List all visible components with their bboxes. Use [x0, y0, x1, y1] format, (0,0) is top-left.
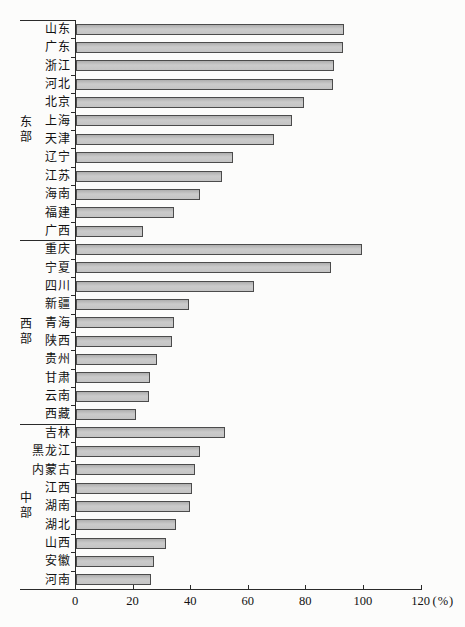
x-axis-tick	[421, 585, 422, 589]
x-axis-tick	[190, 585, 191, 589]
category-label: 广东	[0, 38, 71, 56]
category-label: 天津	[0, 130, 71, 148]
y-axis-tick	[71, 240, 75, 241]
bar	[76, 24, 344, 35]
x-axis-line	[20, 589, 422, 590]
y-axis-tick	[71, 57, 75, 58]
x-axis-tick-label: 80	[299, 594, 312, 609]
category-label: 浙江	[0, 57, 71, 75]
x-axis-tick-label: 0	[72, 594, 78, 609]
bar	[76, 427, 225, 438]
y-axis-tick	[71, 552, 75, 553]
category-label: 青海	[0, 314, 71, 332]
bar	[76, 391, 149, 402]
y-axis-tick	[71, 295, 75, 296]
y-axis-tick	[71, 167, 75, 168]
x-axis-tick	[248, 585, 249, 589]
y-axis-tick	[71, 387, 75, 388]
category-label: 安徽	[0, 552, 71, 570]
x-axis-tick-label: 120	[411, 594, 430, 609]
category-label: 内蒙古	[0, 461, 71, 479]
bar	[76, 226, 143, 237]
bar	[76, 483, 192, 494]
bar	[76, 538, 166, 549]
category-label: 新疆	[0, 295, 71, 313]
y-axis-tick	[71, 38, 75, 39]
y-axis-tick	[71, 93, 75, 94]
bar	[76, 60, 334, 71]
category-label: 重庆	[0, 240, 71, 258]
bar	[76, 317, 174, 328]
bar	[76, 189, 200, 200]
bar	[76, 336, 172, 347]
x-axis-unit-label: (%)	[433, 594, 455, 609]
bar	[76, 409, 136, 420]
y-axis-tick	[71, 571, 75, 572]
bar	[76, 42, 343, 53]
category-label: 江苏	[0, 167, 71, 185]
category-label: 四川	[0, 277, 71, 295]
y-axis-tick	[71, 479, 75, 480]
bar	[76, 152, 233, 163]
bar	[76, 299, 189, 310]
category-label: 山西	[0, 534, 71, 552]
x-axis-tick-label: 60	[242, 594, 255, 609]
category-label: 辽宁	[0, 148, 71, 166]
category-label: 黑龙江	[0, 442, 71, 460]
y-axis-tick	[71, 148, 75, 149]
bar	[76, 464, 195, 475]
category-label: 江西	[0, 479, 71, 497]
y-axis-tick	[71, 497, 75, 498]
y-axis-tick	[71, 424, 75, 425]
y-axis-tick	[71, 185, 75, 186]
category-label: 甘肃	[0, 369, 71, 387]
bar	[76, 171, 222, 182]
category-label: 西藏	[0, 405, 71, 423]
bar	[76, 207, 174, 218]
bar	[76, 354, 157, 365]
category-label: 湖南	[0, 497, 71, 515]
y-axis-tick	[71, 222, 75, 223]
x-axis-tick	[75, 585, 76, 589]
category-label: 湖北	[0, 516, 71, 534]
bar	[76, 262, 331, 273]
bar	[76, 519, 176, 530]
y-axis-tick	[71, 350, 75, 351]
category-label: 河北	[0, 75, 71, 93]
y-axis-tick	[71, 516, 75, 517]
y-axis-tick	[71, 112, 75, 113]
y-axis-tick	[71, 332, 75, 333]
bar	[76, 79, 333, 90]
y-axis-tick	[71, 130, 75, 131]
bar	[76, 115, 292, 126]
category-label: 海南	[0, 185, 71, 203]
bar	[76, 97, 304, 108]
category-label: 宁夏	[0, 259, 71, 277]
y-axis-tick	[71, 204, 75, 205]
category-label: 吉林	[0, 424, 71, 442]
x-axis-tick-label: 40	[184, 594, 197, 609]
x-axis-tick	[133, 585, 134, 589]
bar	[76, 281, 254, 292]
category-label: 河南	[0, 571, 71, 589]
y-axis-tick	[71, 461, 75, 462]
category-label: 上海	[0, 112, 71, 130]
bar	[76, 501, 190, 512]
x-axis-tick-label: 100	[354, 594, 373, 609]
x-axis-tick	[305, 585, 306, 589]
category-label: 山东	[0, 20, 71, 38]
category-label: 北京	[0, 93, 71, 111]
category-label: 贵州	[0, 350, 71, 368]
category-label: 陕西	[0, 332, 71, 350]
y-axis-tick	[71, 314, 75, 315]
category-label: 云南	[0, 387, 71, 405]
bar	[76, 556, 154, 567]
y-axis-tick	[71, 75, 75, 76]
y-axis-tick	[71, 369, 75, 370]
x-axis-tick-label: 20	[126, 594, 139, 609]
bar	[76, 134, 274, 145]
region-label: 中部	[19, 491, 33, 521]
bar	[76, 446, 200, 457]
bar	[76, 244, 362, 255]
y-axis-tick	[71, 259, 75, 260]
